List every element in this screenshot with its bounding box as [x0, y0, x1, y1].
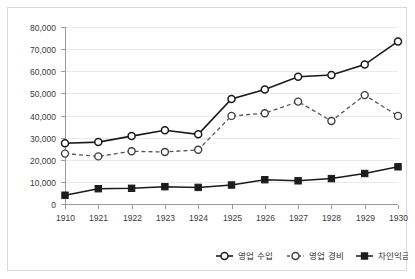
- legend-item: 영업 경비: [287, 251, 344, 261]
- series-line-2: [65, 167, 398, 195]
- data-point-marker: [295, 73, 302, 80]
- data-point-marker: [261, 86, 268, 93]
- y-axis-tick-labels: 80,00070,00060,00050,00040,00030,00020,0…: [30, 23, 56, 210]
- chart-container: 80,00070,00060,00050,00040,00030,00020,0…: [7, 7, 407, 271]
- chart-legend: 영업 수입영업 경비차인익금: [216, 251, 408, 261]
- data-point-marker: [395, 112, 402, 119]
- data-point-marker: [62, 140, 69, 147]
- data-point-marker: [295, 98, 302, 105]
- data-point-marker: [95, 153, 102, 160]
- y-axis-tick-label: 70,000: [30, 45, 56, 55]
- data-point-marker: [195, 146, 202, 153]
- legend-marker-circle: [221, 253, 228, 260]
- y-axis-tick-label: 60,000: [30, 67, 56, 77]
- y-axis-tick-marks: [61, 28, 65, 205]
- legend-label: 영업 경비: [309, 251, 344, 261]
- y-axis-tick-label: 10,000: [30, 178, 56, 188]
- y-axis-tick-label: 30,000: [30, 134, 56, 144]
- x-axis-tick-label: 1910: [56, 213, 75, 223]
- legend-item: 차인익금: [356, 251, 408, 261]
- data-point-marker: [62, 150, 69, 157]
- x-axis-tick-label: 1925: [223, 213, 242, 223]
- data-point-marker: [95, 186, 101, 192]
- legend-label: 영업 수입: [238, 251, 273, 261]
- data-point-marker: [128, 133, 135, 140]
- data-point-marker: [361, 61, 368, 68]
- x-axis-tick-labels: 1910192119221923192419251926192719281929…: [56, 213, 408, 223]
- legend-item: 영업 수입: [216, 251, 273, 261]
- data-point-marker: [395, 164, 401, 170]
- legend-marker-circle: [292, 253, 299, 260]
- data-point-marker: [362, 170, 368, 176]
- data-point-marker: [361, 92, 368, 99]
- data-point-marker: [262, 177, 268, 183]
- x-axis-tick-label: 1928: [322, 213, 341, 223]
- x-axis-tick-label: 1923: [156, 213, 175, 223]
- series-line-0: [65, 41, 398, 143]
- data-point-marker: [128, 148, 135, 155]
- data-point-marker: [328, 72, 335, 79]
- legend-label: 차인익금: [378, 251, 408, 261]
- line-chart: 80,00070,00060,00050,00040,00030,00020,0…: [8, 8, 408, 272]
- data-point-marker: [261, 110, 268, 117]
- data-point-marker: [328, 118, 335, 125]
- x-axis-tick-label: 1930: [389, 213, 408, 223]
- data-point-marker: [161, 149, 168, 156]
- data-point-marker: [395, 38, 402, 45]
- data-point-marker: [128, 185, 134, 191]
- data-point-marker: [295, 178, 301, 184]
- y-axis-tick-label: 0: [51, 200, 56, 210]
- data-point-marker: [228, 112, 235, 119]
- y-axis-tick-label: 50,000: [30, 89, 56, 99]
- x-axis-tick-label: 1924: [189, 213, 208, 223]
- x-axis-tick-label: 1927: [289, 213, 308, 223]
- x-axis-tick-label: 1926: [256, 213, 275, 223]
- data-point-marker: [228, 95, 235, 102]
- data-point-marker: [228, 182, 234, 188]
- legend-marker-square: [361, 253, 367, 259]
- plot-area: 80,00070,00060,00050,00040,00030,00020,0…: [8, 8, 408, 272]
- data-point-marker: [328, 175, 334, 181]
- data-point-marker: [195, 131, 202, 138]
- x-axis-tick-label: 1921: [89, 213, 108, 223]
- data-series-group: [62, 38, 402, 199]
- data-point-marker: [162, 184, 168, 190]
- series-line-1: [65, 95, 398, 156]
- data-point-marker: [62, 192, 68, 198]
- data-point-marker: [161, 127, 168, 134]
- y-axis-tick-label: 20,000: [30, 156, 56, 166]
- data-point-marker: [95, 139, 102, 146]
- x-axis-tick-marks: [66, 205, 399, 209]
- gridlines-group: [65, 28, 398, 183]
- y-axis-tick-label: 80,000: [30, 23, 56, 33]
- x-axis-tick-label: 1922: [123, 213, 142, 223]
- y-axis-tick-label: 40,000: [30, 112, 56, 122]
- data-point-marker: [195, 184, 201, 190]
- x-axis-tick-label: 1929: [356, 213, 375, 223]
